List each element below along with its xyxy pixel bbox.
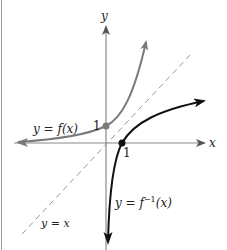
identity-label: y = x [40, 217, 70, 230]
x-axis-label: x [209, 136, 216, 150]
finv-label-sup: −1 [144, 195, 156, 204]
finv-label-suffix: (x) [156, 196, 172, 210]
y-one-label: 1 [93, 119, 101, 133]
x-one-label: 1 [123, 146, 131, 160]
y-axis-label: y [100, 9, 108, 23]
f-intercept-point [103, 123, 110, 130]
finv-label: y = f−1(x) [114, 195, 172, 210]
inverse-function-graph: x y 1 1 y = f(x) y = f−1(x) y = x [0, 0, 227, 250]
finv-curve [108, 101, 204, 242]
f-label: y = f(x) [32, 122, 78, 136]
finv-label-prefix: y = f [114, 196, 146, 210]
